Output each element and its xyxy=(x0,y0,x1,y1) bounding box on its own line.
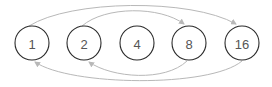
node-8: 8 xyxy=(172,26,206,60)
node-1: 1 xyxy=(15,26,49,60)
node-label: 16 xyxy=(235,37,249,52)
edge-16-to-1 xyxy=(35,61,242,81)
node-label: 2 xyxy=(80,37,87,52)
node-label: 1 xyxy=(28,37,35,52)
node-16: 16 xyxy=(225,26,259,60)
node-2: 2 xyxy=(67,26,101,60)
node-label: 8 xyxy=(185,37,192,52)
node-label: 4 xyxy=(133,37,140,52)
edge-2-to-8 xyxy=(82,11,184,26)
diagram-canvas: 1 2 4 8 16 xyxy=(0,0,272,87)
node-4: 4 xyxy=(120,26,154,60)
edge-8-to-2 xyxy=(89,61,187,75)
edge-1-to-16 xyxy=(29,5,236,26)
